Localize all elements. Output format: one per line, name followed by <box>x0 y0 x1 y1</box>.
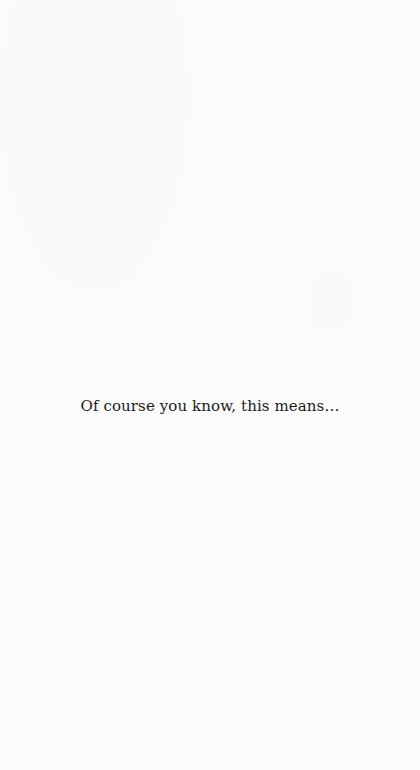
body-text: Of course you know, this means… <box>0 397 420 415</box>
book-page: Of course you know, this means… <box>0 0 420 770</box>
